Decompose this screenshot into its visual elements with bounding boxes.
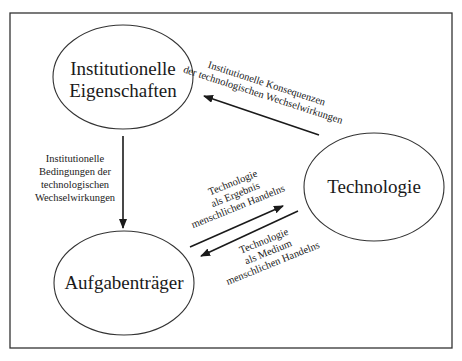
node-aufgabentraeger: Aufgabenträger xyxy=(54,231,194,335)
edge-institutionelle-konsequenzen: Institutionelle Konsequenzen der technol… xyxy=(182,52,349,135)
diagram-canvas: Institutionelle Eigenschaften Technologi… xyxy=(0,0,462,361)
node-label-line: Eigenschaften xyxy=(69,80,177,101)
edge-label-line: technologischen xyxy=(41,179,110,190)
edge-institutionelle-bedingungen: Institutionelle Bedingungen der technolo… xyxy=(35,136,123,228)
edge-technologie-als-medium: Technologie als Medium menschlichen Hand… xyxy=(201,211,321,287)
node-label-line: Technologie xyxy=(327,176,421,197)
edge-label-line: Wechselwirkungen xyxy=(35,192,116,203)
edge-label-line: Institutionelle xyxy=(46,153,105,164)
node-label-line: Aufgabenträger xyxy=(64,272,184,293)
node-label-line: Institutionelle xyxy=(70,58,176,79)
node-institutionelle-eigenschaften: Institutionelle Eigenschaften xyxy=(53,25,193,129)
node-technologie: Technologie xyxy=(304,133,444,241)
edge-label-line: Bedingungen der xyxy=(39,166,112,177)
